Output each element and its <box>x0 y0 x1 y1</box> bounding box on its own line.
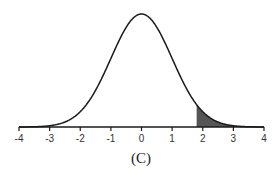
figure-caption: (C) <box>131 150 151 167</box>
x-axis-ticks: -4-3-2-101234 <box>15 127 268 144</box>
x-tick-label: -3 <box>45 133 54 144</box>
x-tick-label: 3 <box>231 133 237 144</box>
normal-distribution-plot: -4-3-2-101234 (C) <box>0 0 280 178</box>
x-tick-label: 0 <box>139 133 145 144</box>
x-tick-label: 2 <box>200 133 206 144</box>
x-tick-label: -4 <box>15 133 24 144</box>
x-tick-label: 1 <box>169 133 175 144</box>
normal-curve <box>19 14 264 127</box>
x-tick-label: -2 <box>76 133 85 144</box>
x-tick-label: 4 <box>261 133 267 144</box>
x-tick-label: -1 <box>106 133 115 144</box>
